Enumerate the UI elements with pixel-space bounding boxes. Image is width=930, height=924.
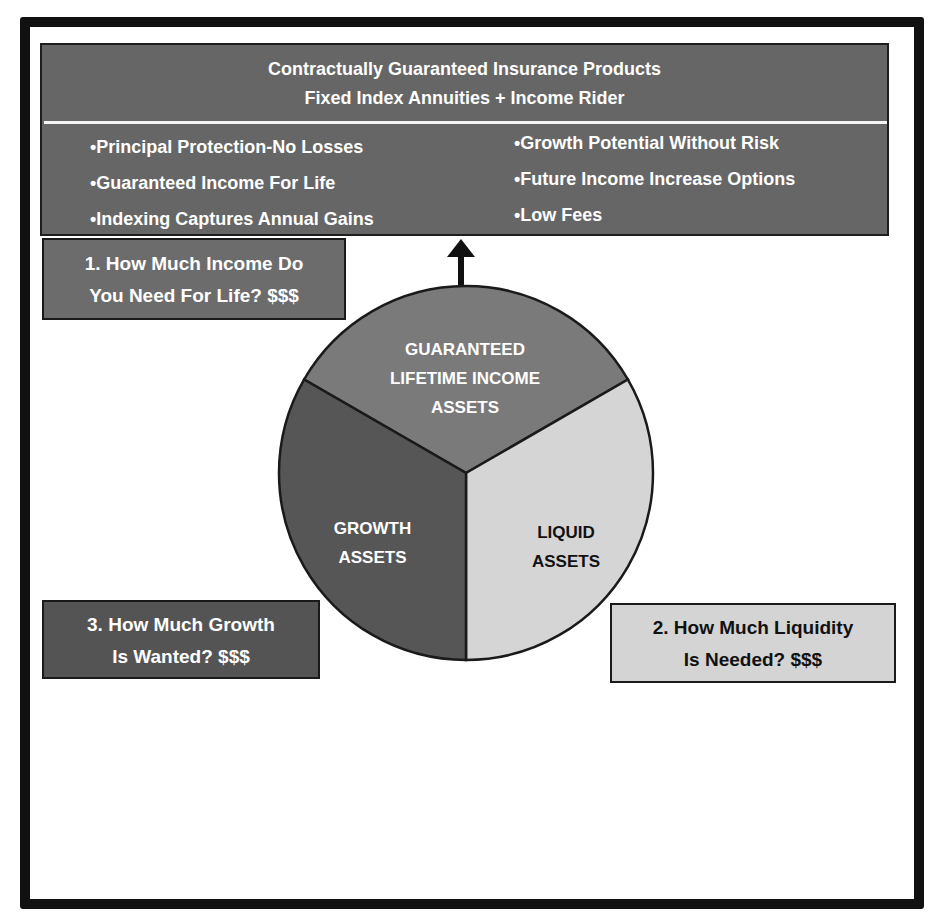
liquidity-question-box: 2. How Much Liquidity Is Needed? $$$ (610, 603, 896, 683)
arrow-up-icon (447, 239, 475, 288)
growth-question-box: 3. How Much Growth Is Wanted? $$$ (42, 600, 320, 679)
growth-question-line1: 3. How Much Growth (44, 609, 318, 641)
pie-label-liquid: LIQUID ASSETS (500, 518, 632, 576)
pie-label-line: GROWTH (300, 514, 445, 543)
asset-pie-chart (0, 0, 930, 924)
pie-label-line: LIQUID (500, 518, 632, 547)
pie-label-line: GUARANTEED (365, 335, 565, 364)
pie-label-line: ASSETS (365, 393, 565, 422)
growth-question-line2: Is Wanted? $$$ (44, 641, 318, 673)
liquidity-question-line1: 2. How Much Liquidity (612, 612, 894, 644)
pie-label-guaranteed: GUARANTEED LIFETIME INCOME ASSETS (365, 335, 565, 422)
pie-label-growth: GROWTH ASSETS (300, 514, 445, 572)
liquidity-question-line2: Is Needed? $$$ (612, 644, 894, 676)
pie-label-line: LIFETIME INCOME (365, 364, 565, 393)
pie-label-line: ASSETS (300, 543, 445, 572)
pie-label-line: ASSETS (500, 547, 632, 576)
